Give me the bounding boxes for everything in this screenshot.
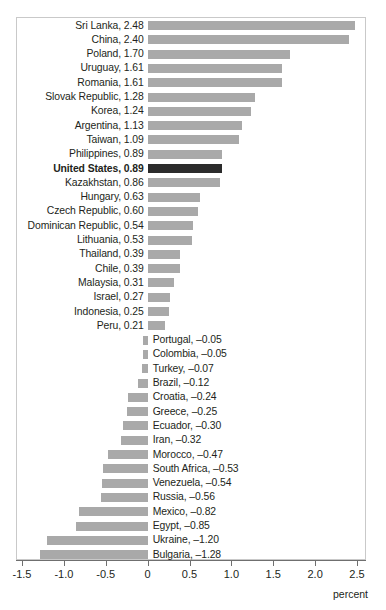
bar-row: Iran, –0.32	[16, 433, 366, 447]
bar-row: Lithuania, 0.53	[16, 233, 366, 247]
bar-row: Taiwan, 1.09	[16, 133, 366, 147]
bar-row: Argentina, 1.13	[16, 119, 366, 133]
bar	[40, 550, 147, 559]
bar-row-label: Portugal, –0.05	[153, 333, 222, 347]
bar-chart: Sri Lanka, 2.48China, 2.40Poland, 1.70Ur…	[0, 0, 386, 610]
x-axis-tick	[148, 560, 149, 566]
bar-row-label: Greece, –0.25	[153, 405, 218, 419]
bar	[108, 450, 147, 459]
bar	[76, 522, 147, 531]
bar	[47, 536, 148, 545]
bar	[148, 21, 356, 30]
bar	[148, 178, 220, 187]
x-axis-tick	[315, 560, 316, 566]
bar	[103, 464, 147, 473]
bar	[148, 35, 349, 44]
bar-row: Morocco, –0.47	[16, 448, 366, 462]
bar-row-label: Dominican Republic, 0.54	[28, 219, 144, 233]
bar-row-label: Ecuador, –0.30	[153, 419, 222, 433]
bar-row-label: Venezuela, –0.54	[153, 476, 232, 490]
bar-row-label: Lithuania, 0.53	[77, 233, 144, 247]
x-axis-tick-label: 2.5	[349, 568, 364, 580]
bar-row-label: Czech Republic, 0.60	[47, 204, 144, 218]
bar-row-label: Ukraine, –1.20	[153, 533, 219, 547]
bar-row-label: Kazakhstan, 0.86	[65, 176, 144, 190]
bar-row-label: Sri Lanka, 2.48	[75, 19, 143, 33]
bar-row: Egypt, –0.85	[16, 519, 366, 533]
bar-row-label: South Africa, –0.53	[153, 462, 239, 476]
x-axis-tick-label: -1.0	[54, 568, 73, 580]
bar-row: China, 2.40	[16, 33, 366, 47]
x-axis-tick	[357, 560, 358, 566]
bar-row-label: Slovak Republic, 1.28	[45, 90, 143, 104]
bar-row: Malaysia, 0.31	[16, 276, 366, 290]
bar-row: Korea, 1.24	[16, 104, 366, 118]
bar-row: Philippines, 0.89	[16, 147, 366, 161]
bar-row: Venezuela, –0.54	[16, 476, 366, 490]
bar-row-label: Croatia, –0.24	[153, 390, 217, 404]
bar-row: Ecuador, –0.30	[16, 419, 366, 433]
bar-row: Peru, 0.21	[16, 319, 366, 333]
x-axis-tick-label: 2.0	[307, 568, 322, 580]
bar	[143, 336, 147, 345]
bar-row-label: Thailand, 0.39	[79, 247, 143, 261]
bar-row: Indonesia, 0.25	[16, 305, 366, 319]
bar-row: Brazil, –0.12	[16, 376, 366, 390]
bar-row: Czech Republic, 0.60	[16, 204, 366, 218]
bar	[142, 364, 148, 373]
bar	[148, 93, 255, 102]
bar-row: Sri Lanka, 2.48	[16, 19, 366, 33]
bar-row: Ukraine, –1.20	[16, 533, 366, 547]
bar	[138, 379, 148, 388]
bar-row: Poland, 1.70	[16, 47, 366, 61]
bar	[148, 50, 290, 59]
x-axis-line	[16, 560, 366, 561]
bar-row: Croatia, –0.24	[16, 390, 366, 404]
bar-row: Chile, 0.39	[16, 262, 366, 276]
x-axis-tick	[64, 560, 65, 566]
bar-row-label: China, 2.40	[92, 33, 144, 47]
bar-row-label: Brazil, –0.12	[153, 376, 209, 390]
bar-row: Slovak Republic, 1.28	[16, 90, 366, 104]
bar	[102, 479, 147, 488]
bar	[148, 135, 239, 144]
bar	[79, 507, 148, 516]
bar-row: Hungary, 0.63	[16, 190, 366, 204]
bar-row: South Africa, –0.53	[16, 462, 366, 476]
x-axis-title: percent	[333, 588, 368, 600]
x-axis-tick-label: 1.0	[224, 568, 239, 580]
bar-row-label: Uruguay, 1.61	[80, 61, 143, 75]
bar	[148, 164, 223, 173]
bar-row-label: Israel, 0.27	[93, 290, 143, 304]
x-axis-tick-label: 1.5	[266, 568, 281, 580]
x-axis-tick-label: 0	[145, 568, 151, 580]
bar	[148, 307, 169, 316]
bar	[148, 278, 174, 287]
bar	[127, 407, 148, 416]
bar	[143, 350, 147, 359]
x-axis-tick	[106, 560, 107, 566]
bar-row-label: Korea, 1.24	[91, 104, 144, 118]
bar	[148, 207, 198, 216]
bar	[148, 150, 223, 159]
bar-row-label: Poland, 1.70	[86, 47, 143, 61]
bar-row-label: Egypt, –0.85	[153, 519, 210, 533]
x-axis-tick	[22, 560, 23, 566]
bar-row-label: Indonesia, 0.25	[74, 305, 144, 319]
bar-row-label: United States, 0.89	[53, 162, 144, 176]
bar-row: Portugal, –0.05	[16, 333, 366, 347]
bar-row: United States, 0.89	[16, 162, 366, 176]
bar-row: Romania, 1.61	[16, 76, 366, 90]
bar-row: Thailand, 0.39	[16, 247, 366, 261]
bar-row-label: Mexico, –0.82	[153, 505, 216, 519]
bar-row: Israel, 0.27	[16, 290, 366, 304]
bar	[123, 421, 148, 430]
bar	[148, 264, 181, 273]
bar-rows-container: Sri Lanka, 2.48China, 2.40Poland, 1.70Ur…	[16, 17, 366, 560]
bar	[148, 321, 166, 330]
bar-row: Greece, –0.25	[16, 405, 366, 419]
bar-row: Mexico, –0.82	[16, 505, 366, 519]
x-axis-tick	[273, 560, 274, 566]
bar-row: Dominican Republic, 0.54	[16, 219, 366, 233]
bar-row-label: Morocco, –0.47	[153, 448, 223, 462]
